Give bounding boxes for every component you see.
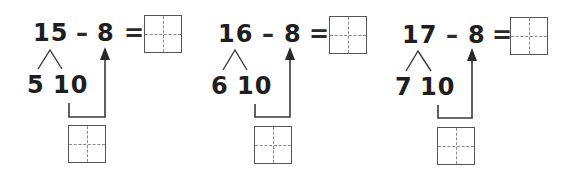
split-ones: 5 xyxy=(27,73,45,97)
decomposition-branch-icon xyxy=(223,50,247,70)
subtrahend: 8 xyxy=(284,22,302,46)
decomposition-branch-icon xyxy=(406,51,431,71)
intermediate-box[interactable] xyxy=(437,127,475,165)
decomposition-branch-icon xyxy=(38,50,62,69)
split-ten: 10 xyxy=(237,74,272,98)
box-horizontal-guide xyxy=(255,145,291,146)
intermediate-box[interactable] xyxy=(68,125,106,163)
box-horizontal-guide xyxy=(330,35,366,36)
box-horizontal-guide xyxy=(69,144,105,145)
problem-2: 16 – 8 = 6 10 xyxy=(185,0,375,181)
box-horizontal-guide xyxy=(511,36,547,37)
split-ones: 7 xyxy=(395,75,413,99)
answer-box[interactable] xyxy=(144,15,182,53)
equals-sign: = xyxy=(309,22,329,46)
arrowhead-icon xyxy=(100,47,110,60)
minus-sign: – xyxy=(262,22,274,46)
answer-box[interactable] xyxy=(329,16,367,54)
intermediate-box[interactable] xyxy=(254,126,292,164)
minuend: 15 xyxy=(33,21,68,45)
minuend: 16 xyxy=(218,22,253,46)
split-ten: 10 xyxy=(420,75,455,99)
box-horizontal-guide xyxy=(438,146,474,147)
split-ten: 10 xyxy=(53,73,88,97)
problem-1: 15 – 8 = 5 10 xyxy=(0,0,190,181)
subtrahend: 8 xyxy=(97,21,115,45)
problem-3: 17 – 8 = 7 10 xyxy=(368,0,558,181)
box-horizontal-guide xyxy=(145,34,181,35)
arrowhead-icon xyxy=(285,47,295,60)
subtrahend: 8 xyxy=(468,23,486,47)
minus-sign: – xyxy=(446,23,458,47)
minus-sign: – xyxy=(76,21,88,45)
equals-sign: = xyxy=(124,21,144,45)
minuend: 17 xyxy=(402,23,437,47)
split-ones: 6 xyxy=(211,74,229,98)
answer-box[interactable] xyxy=(510,17,548,55)
arrowhead-icon xyxy=(467,48,477,61)
